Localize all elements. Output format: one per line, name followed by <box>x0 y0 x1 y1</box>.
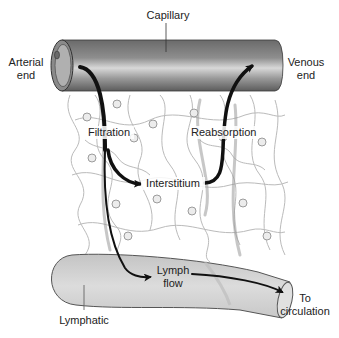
capillary-vessel <box>51 23 283 91</box>
to-circulation-label-line2: circulation <box>277 305 333 318</box>
capillary-exchange-diagram: Capillary Arterial end Venous end Filtra… <box>0 0 339 338</box>
arterial-end-label-line1: Arterial <box>6 56 46 69</box>
arterial-end-label-line2: end <box>6 69 46 82</box>
reabsorption-label: Reabsorption <box>190 126 256 139</box>
to-circulation-label: To circulation <box>277 292 333 318</box>
lymph-flow-label-line1: Lymph <box>156 264 190 277</box>
filtration-label: Filtration <box>84 126 134 139</box>
lymph-flow-label-line2: flow <box>156 277 190 290</box>
venous-end-label-line1: Venous <box>285 56 327 69</box>
capillary-label: Capillary <box>146 9 190 22</box>
lymph-flow-label: Lymph flow <box>156 264 190 290</box>
venous-end-label: Venous end <box>285 56 327 82</box>
lymphatic-label: Lymphatic <box>58 314 110 327</box>
venous-end-label-line2: end <box>285 69 327 82</box>
interstitium-label: Interstitium <box>141 177 205 190</box>
arterial-end-label: Arterial end <box>6 56 46 82</box>
to-circulation-label-line1: To <box>277 292 333 305</box>
